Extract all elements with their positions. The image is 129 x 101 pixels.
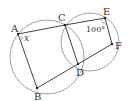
point-e	[104, 17, 106, 19]
point-label-e: E	[103, 6, 110, 17]
circle-abdc	[10, 20, 84, 94]
segment-fd	[78, 44, 112, 64]
circle-cefd	[61, 13, 119, 71]
point-label-f: F	[115, 40, 122, 51]
segment-ce	[65, 18, 105, 25]
angle-arc-a	[21, 36, 22, 40]
angle-label-100: 100°	[86, 25, 105, 34]
point-label-c: C	[58, 12, 66, 23]
diagram-canvas: ABCDEF x 100°	[0, 0, 129, 101]
point-d	[77, 63, 79, 65]
angle-label-x: x	[24, 33, 29, 43]
point-label-b: B	[34, 91, 41, 101]
point-label-a: A	[10, 23, 19, 34]
point-c	[64, 24, 66, 26]
point-label-d: D	[76, 67, 84, 78]
geometry-figure: ABCDEF x 100°	[0, 0, 129, 101]
point-f	[111, 43, 113, 45]
segment-cd	[65, 25, 78, 64]
angle-arc-e	[101, 20, 105, 23]
point-b	[36, 87, 38, 89]
